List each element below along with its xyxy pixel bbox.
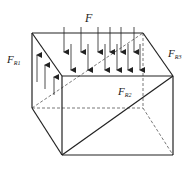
label-reaction-r1: FR1 xyxy=(6,53,20,66)
hidden-bottom-right-edge xyxy=(143,108,173,155)
label-load-f: F xyxy=(84,11,93,25)
prism-diagram: F FR1 FR3 FR2 xyxy=(0,0,190,173)
label-reaction-r3: FR3 xyxy=(167,47,181,60)
top-left-slant-edge xyxy=(32,33,62,76)
hidden-edges xyxy=(32,33,173,155)
label-reaction-r2: FR2 xyxy=(117,85,131,98)
left-bottom-slant-edge xyxy=(32,108,62,155)
